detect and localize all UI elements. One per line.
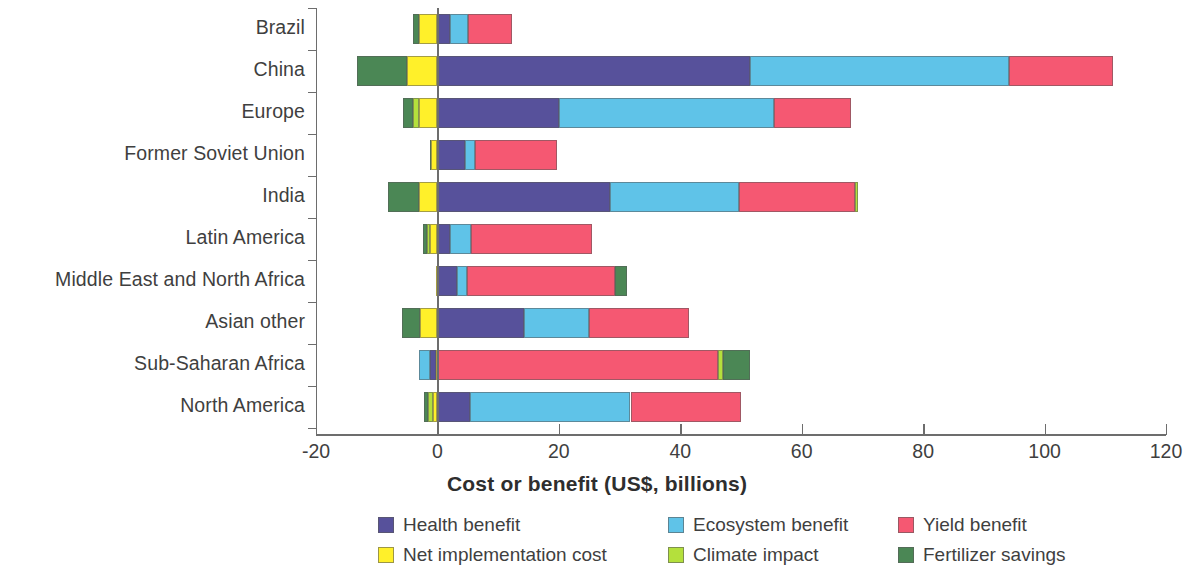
bar-segment-ecosystem-benefit bbox=[450, 224, 472, 254]
legend-label: Health benefit bbox=[403, 514, 520, 536]
y-axis-label-brazil: Brazil bbox=[256, 16, 305, 39]
legend-label: Ecosystem benefit bbox=[693, 514, 848, 536]
bar-row bbox=[316, 386, 1166, 428]
y-axis-label-asian-other: Asian other bbox=[205, 310, 305, 333]
legend-label: Net implementation cost bbox=[403, 544, 607, 566]
bar-segment-yield-benefit bbox=[589, 308, 689, 338]
bar-segment-ecosystem-benefit bbox=[419, 350, 431, 380]
bar-segment-net-implementation-cost bbox=[419, 182, 438, 212]
y-axis-label-india: India bbox=[262, 184, 305, 207]
x-axis-tick-label: 60 bbox=[791, 440, 813, 463]
bar-segment-net-implementation-cost bbox=[419, 14, 438, 44]
bar-segment-ecosystem-benefit bbox=[559, 98, 775, 128]
bar-latin-america bbox=[316, 224, 1166, 254]
bar-row bbox=[316, 176, 1166, 218]
bar-segment-yield-benefit bbox=[475, 140, 557, 170]
legend-item-health-benefit: Health benefit bbox=[378, 514, 668, 536]
bar-sub-saharan-africa bbox=[316, 350, 1166, 380]
y-axis-label-china: China bbox=[254, 58, 305, 81]
legend-swatch-icon bbox=[668, 547, 684, 563]
bar-former-soviet-union bbox=[316, 140, 1166, 170]
bar-segment-net-implementation-cost bbox=[419, 98, 438, 128]
x-axis-line bbox=[316, 434, 1166, 436]
zero-reference-line bbox=[437, 8, 438, 434]
bar-segment-yield-benefit bbox=[774, 98, 851, 128]
bar-row bbox=[316, 260, 1166, 302]
bar-india bbox=[316, 182, 1166, 212]
legend: Health benefitEcosystem benefitYield ben… bbox=[378, 510, 1098, 569]
x-axis-tick-label: 40 bbox=[669, 440, 691, 463]
bar-segment-health-benefit bbox=[437, 266, 456, 296]
bar-segment-fertilizer-savings bbox=[357, 56, 407, 86]
bar-segment-health-benefit bbox=[437, 14, 449, 44]
bar-row bbox=[316, 218, 1166, 260]
x-axis-tick bbox=[559, 424, 560, 435]
legend-label: Yield benefit bbox=[923, 514, 1027, 536]
bar-segment-yield-benefit bbox=[467, 266, 615, 296]
x-axis-tick-label: 20 bbox=[548, 440, 570, 463]
bar-row bbox=[316, 50, 1166, 92]
bar-segment-health-benefit bbox=[437, 392, 469, 422]
bar-segment-ecosystem-benefit bbox=[465, 140, 475, 170]
legend-item-ecosystem-benefit: Ecosystem benefit bbox=[668, 514, 898, 536]
bar-segment-ecosystem-benefit bbox=[470, 392, 631, 422]
bar-segment-climate-impact bbox=[855, 182, 858, 212]
legend-item-fertilizer-savings: Fertilizer savings bbox=[898, 544, 1098, 566]
plot-area bbox=[316, 8, 1166, 428]
y-axis-label-sub-saharan-africa: Sub-Saharan Africa bbox=[134, 352, 305, 375]
x-axis-tick bbox=[316, 424, 317, 435]
legend-swatch-icon bbox=[898, 517, 914, 533]
bar-segment-fertilizer-savings bbox=[402, 308, 420, 338]
x-axis-title: Cost or benefit (US$, billions) bbox=[0, 472, 1194, 496]
bar-segment-health-benefit bbox=[437, 56, 750, 86]
legend-label: Climate impact bbox=[693, 544, 819, 566]
y-axis-label-north-america: North America bbox=[180, 394, 305, 417]
legend-swatch-icon bbox=[668, 517, 684, 533]
bar-segment-yield-benefit bbox=[437, 350, 718, 380]
bar-row bbox=[316, 302, 1166, 344]
bar-segment-fertilizer-savings bbox=[723, 350, 750, 380]
bar-segment-net-implementation-cost bbox=[430, 224, 437, 254]
bar-segment-yield-benefit bbox=[739, 182, 854, 212]
x-axis-tick bbox=[437, 424, 438, 435]
x-axis-tick bbox=[923, 424, 924, 435]
x-axis-tick-label: 120 bbox=[1150, 440, 1183, 463]
y-axis-label-europe: Europe bbox=[242, 100, 305, 123]
bar-segment-net-implementation-cost bbox=[420, 308, 437, 338]
bar-segment-ecosystem-benefit bbox=[450, 14, 468, 44]
bar-brazil bbox=[316, 14, 1166, 44]
legend-item-climate-impact: Climate impact bbox=[668, 544, 898, 566]
legend-swatch-icon bbox=[378, 547, 394, 563]
bar-segment-health-benefit bbox=[437, 308, 524, 338]
x-axis-tick-label: -20 bbox=[302, 440, 330, 463]
bar-segment-net-implementation-cost bbox=[407, 56, 437, 86]
legend-label: Fertilizer savings bbox=[923, 544, 1066, 566]
x-axis-tick-label: 100 bbox=[1028, 440, 1061, 463]
bar-segment-health-benefit bbox=[437, 182, 610, 212]
bar-segment-ecosystem-benefit bbox=[750, 56, 1009, 86]
bar-segment-yield-benefit bbox=[471, 224, 591, 254]
bar-europe bbox=[316, 98, 1166, 128]
bar-middle-east-and-north-africa bbox=[316, 266, 1166, 296]
legend-item-yield-benefit: Yield benefit bbox=[898, 514, 1098, 536]
bar-north-america bbox=[316, 392, 1166, 422]
bar-segment-fertilizer-savings bbox=[403, 98, 412, 128]
legend-swatch-icon bbox=[378, 517, 394, 533]
legend-swatch-icon bbox=[898, 547, 914, 563]
x-axis-tick-label: 0 bbox=[432, 440, 443, 463]
bar-row bbox=[316, 134, 1166, 176]
y-axis-label-latin-america: Latin America bbox=[186, 226, 305, 249]
bar-segment-health-benefit bbox=[437, 140, 464, 170]
x-axis-tick bbox=[1166, 424, 1167, 435]
bar-segment-yield-benefit bbox=[468, 14, 512, 44]
bar-segment-fertilizer-savings bbox=[388, 182, 418, 212]
bar-segment-health-benefit bbox=[437, 224, 449, 254]
bar-row bbox=[316, 8, 1166, 50]
legend-item-net-implementation-cost: Net implementation cost bbox=[378, 544, 668, 566]
bar-china bbox=[316, 56, 1166, 86]
bar-segment-yield-benefit bbox=[631, 392, 742, 422]
y-axis-label-middle-east-and-north-africa: Middle East and North Africa bbox=[55, 268, 305, 291]
bar-segment-ecosystem-benefit bbox=[610, 182, 739, 212]
bar-asian-other bbox=[316, 308, 1166, 338]
y-axis-label-former-soviet-union: Former Soviet Union bbox=[124, 142, 305, 165]
